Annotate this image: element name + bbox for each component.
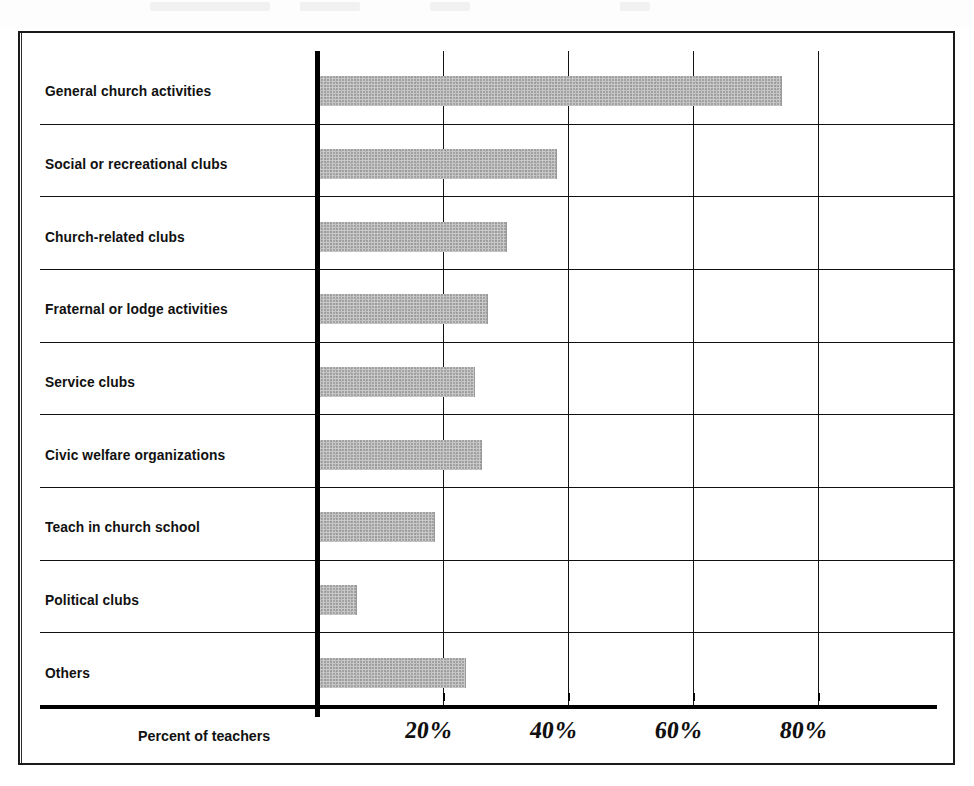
bar: [318, 76, 782, 106]
plot-area: General church activitiesSocial or recre…: [20, 33, 957, 767]
x-tick-label: 20%: [403, 717, 454, 744]
category-label: Civic welfare organizations: [45, 447, 225, 463]
row-separator: [40, 196, 955, 197]
bar: [318, 440, 482, 470]
gridline-60: [693, 51, 694, 705]
row-separator: [40, 124, 955, 125]
row-separator: [40, 342, 955, 343]
axis-tick-40: [568, 693, 570, 701]
category-label: Church-related clubs: [45, 229, 185, 245]
bar: [318, 149, 557, 179]
axis-tick-20: [443, 693, 445, 701]
chart-frame: General church activitiesSocial or recre…: [18, 31, 955, 765]
bar: [318, 585, 357, 615]
row-separator: [40, 560, 955, 561]
x-tick-label: 80%: [778, 717, 829, 744]
category-label: Teach in church school: [45, 519, 200, 535]
category-label: Social or recreational clubs: [45, 156, 228, 172]
row-separator: [40, 269, 955, 270]
category-label: General church activities: [45, 83, 211, 99]
x-tick-label: 40%: [528, 717, 579, 744]
bar: [318, 658, 466, 688]
x-axis-title: Percent of teachers: [138, 727, 270, 744]
gridline-40: [568, 51, 569, 705]
bar: [318, 367, 475, 397]
axis-tick-80: [818, 693, 820, 701]
category-label: Fraternal or lodge activities: [45, 301, 228, 317]
row-separator: [40, 632, 955, 633]
x-tick-label: 60%: [653, 717, 704, 744]
bar: [318, 222, 507, 252]
scan-artifact-strip: [0, 0, 974, 28]
category-label: Service clubs: [45, 374, 135, 390]
x-axis-line: [40, 705, 937, 709]
row-separator: [40, 414, 955, 415]
category-label: Others: [45, 665, 90, 681]
row-separator: [40, 487, 955, 488]
y-axis-zero-line: [315, 51, 320, 717]
bar: [318, 512, 435, 542]
gridline-80: [818, 51, 819, 705]
axis-tick-60: [693, 693, 695, 701]
category-label: Political clubs: [45, 592, 139, 608]
bar: [318, 294, 488, 324]
